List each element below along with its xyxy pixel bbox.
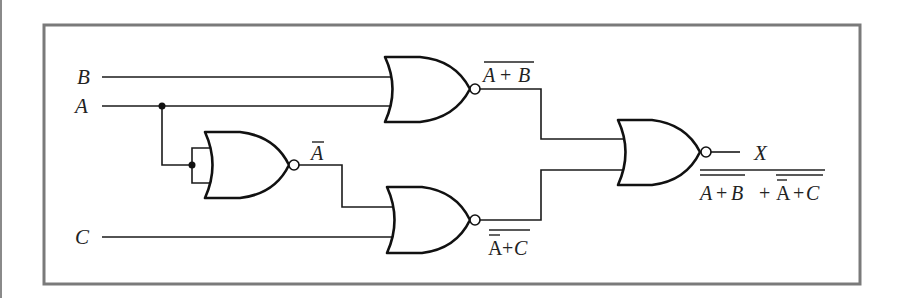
- svg-text:A + C: A + C: [488, 237, 528, 259]
- nor-gate-final: [618, 120, 711, 185]
- svg-text:A + B +: A + B + A + C: [698, 182, 820, 204]
- inversion-bubble-final: [701, 147, 711, 157]
- input-label-c: C: [75, 225, 90, 249]
- label-top-output: A + B: [481, 62, 534, 86]
- label-inverter-output: A: [309, 142, 324, 164]
- wire-a-branch: [162, 106, 192, 165]
- nor-gate-top: [385, 57, 480, 122]
- nor-gate-inverter: [205, 132, 299, 198]
- wire-bottom-out: [480, 170, 625, 220]
- diagram-frame: [44, 25, 860, 284]
- logic-circuit-diagram: B A C: [0, 0, 911, 298]
- nor-gate-bottom: [387, 187, 480, 253]
- input-label-a: A: [73, 94, 88, 118]
- wire-not-a: [299, 165, 392, 207]
- inversion-bubble-top: [470, 84, 480, 94]
- input-label-b: B: [77, 65, 90, 89]
- svg-text:A + B: A + B: [481, 64, 530, 86]
- junction-dot-inverter: [189, 162, 196, 169]
- label-bottom-output: A + C: [488, 230, 530, 259]
- svg-text:A: A: [309, 142, 324, 164]
- inversion-bubble-bottom: [470, 215, 480, 225]
- output-label-x: X: [753, 141, 768, 165]
- junction-dot-a: [159, 103, 166, 110]
- output-expression: A + B + A + C: [698, 170, 825, 204]
- inversion-bubble-inverter: [289, 160, 299, 170]
- wire-top-out: [480, 89, 625, 139]
